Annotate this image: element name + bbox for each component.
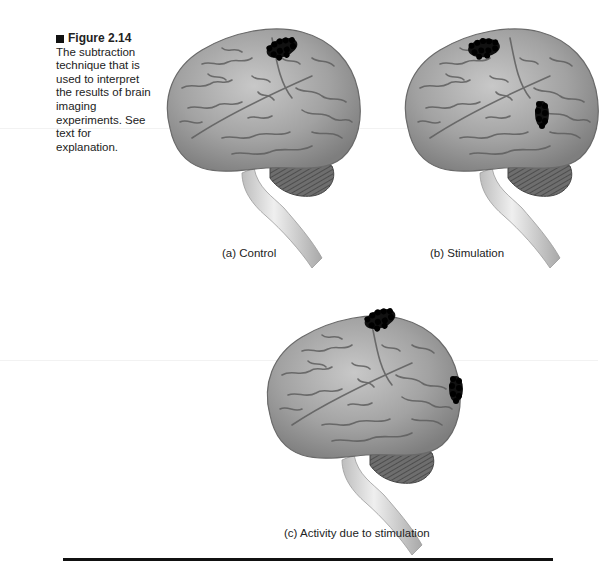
brain-illustration (400, 18, 603, 278)
bottom-rule (63, 558, 553, 561)
figure-number-text: Figure 2.14 (68, 32, 131, 46)
brain-illustration (262, 305, 467, 565)
figure-caption-text: The subtraction technique that is used t… (56, 46, 156, 155)
brain-illustration (162, 18, 367, 278)
square-bullet-icon (56, 35, 64, 43)
panel-b-label: (b) Stimulation (430, 247, 504, 259)
panel-c-label: (c) Activity due to stimulation (284, 527, 430, 539)
figure-caption: Figure 2.14 The subtraction technique th… (56, 32, 156, 154)
panel-a-label: (a) Control (222, 247, 276, 259)
panel-a-control (162, 18, 367, 278)
figure-number: Figure 2.14 (56, 32, 156, 46)
panel-b-stimulation (400, 18, 603, 278)
panel-c-difference (262, 305, 467, 565)
